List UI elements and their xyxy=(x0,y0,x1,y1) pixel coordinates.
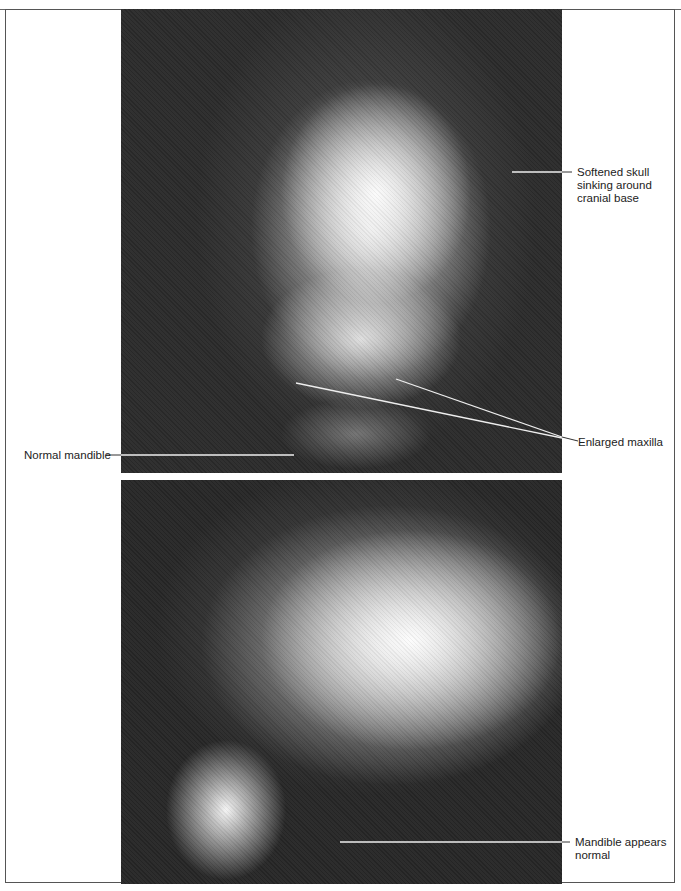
film-grain xyxy=(121,9,562,473)
label-softened-skull: Softened skull sinking around cranial ba… xyxy=(577,166,652,205)
label-normal-mandible: Normal mandible xyxy=(24,449,111,462)
film-grain xyxy=(121,480,562,884)
lateral-skull-xray xyxy=(121,480,562,884)
label-line: Softened skull xyxy=(577,166,652,179)
frontal-skull-xray xyxy=(121,9,562,473)
label-enlarged-maxilla: Enlarged maxilla xyxy=(578,436,663,449)
label-line: normal xyxy=(575,849,666,862)
label-mandible-appears-normal: Mandible appears normal xyxy=(575,836,666,862)
label-line: sinking around xyxy=(577,179,652,192)
label-line: cranial base xyxy=(577,192,652,205)
label-line: Mandible appears xyxy=(575,836,666,849)
